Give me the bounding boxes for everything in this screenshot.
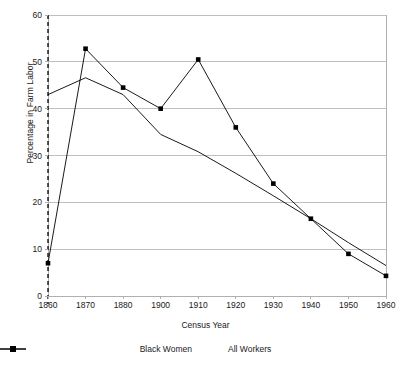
data-point-marker	[271, 181, 276, 186]
data-point-marker	[121, 85, 126, 90]
data-point-marker	[158, 106, 163, 111]
data-point-marker	[46, 261, 51, 266]
legend-label-black-women: Black Women	[140, 344, 192, 354]
data-point-marker	[83, 46, 88, 51]
legend-label-all-workers: All Workers	[228, 344, 271, 354]
legend-line-icon	[0, 344, 26, 354]
data-point-marker	[384, 274, 389, 279]
data-point-marker	[346, 252, 351, 257]
chart-legend: Black Women All Workers	[0, 344, 411, 354]
legend-item-all-workers[interactable]: All Workers	[228, 344, 271, 354]
legend-item-black-women[interactable]: Black Women	[140, 344, 192, 354]
series-line-all-workers	[48, 78, 386, 266]
chart-container: Percentage in Farm Labor Census Year 010…	[0, 0, 411, 366]
data-point-marker	[233, 125, 238, 130]
data-point-marker	[196, 57, 201, 62]
plot-area	[0, 0, 411, 366]
